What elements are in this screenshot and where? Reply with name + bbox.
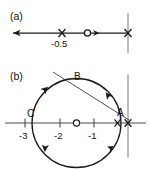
figure-canvas: (a) -0.5 bbox=[0, 0, 149, 171]
panel-a-tick-label-minus-0-5: -0.5 bbox=[51, 38, 67, 49]
panel-b-tick-label-minus-2: -2 bbox=[54, 130, 62, 141]
root-locus-figure: (a) -0.5 bbox=[0, 0, 149, 171]
panel-b-point-label-b: B bbox=[74, 71, 81, 82]
panel-b-label: (b) bbox=[10, 70, 23, 82]
panel-a-label: (a) bbox=[10, 10, 23, 22]
panel-b: (b) -3 -2 -1 bbox=[5, 70, 146, 168]
panel-b-point-label-c: C bbox=[27, 108, 34, 119]
panel-b-locus-arrow-upper-left bbox=[40, 87, 49, 95]
panel-a: (a) -0.5 bbox=[10, 10, 132, 53]
panel-b-tick-label-minus-3: -3 bbox=[19, 130, 27, 141]
panel-b-locus-arrow-lower-left bbox=[42, 145, 49, 152]
panel-b-zero-marker bbox=[73, 120, 79, 126]
panel-b-point-label-a: A bbox=[117, 107, 124, 118]
panel-b-tick-label-minus-1: -1 bbox=[88, 130, 96, 141]
panel-a-zero-marker bbox=[84, 30, 90, 36]
